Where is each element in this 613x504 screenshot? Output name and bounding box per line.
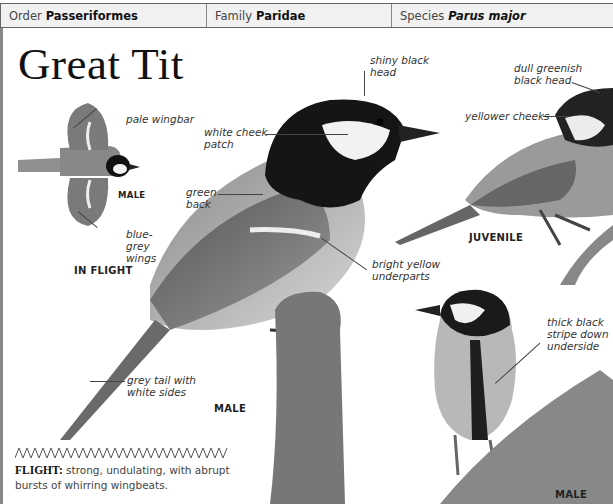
label-white-cheek-patch: white cheek patch bbox=[204, 126, 274, 150]
main-male-caption: MALE bbox=[214, 403, 246, 414]
in-flight-sex-caption: MALE bbox=[118, 190, 145, 200]
flight-pattern-zigzag-icon bbox=[15, 447, 230, 459]
leader-line bbox=[364, 71, 365, 96]
label-shiny-black-head: shiny black head bbox=[370, 54, 440, 78]
label-blue-grey-wings: blue-grey wings bbox=[126, 228, 176, 264]
label-bright-yellow-underparts: bright yellow underparts bbox=[372, 258, 462, 282]
in-flight-caption: IN FLIGHT bbox=[74, 265, 133, 276]
leader-line bbox=[90, 381, 125, 382]
label-grey-tail: grey tail with white sides bbox=[127, 374, 207, 398]
flight-description: FLIGHT: strong, undulating, with abrupt … bbox=[15, 463, 255, 493]
label-dull-greenish-black-head: dull greenish black head bbox=[514, 62, 594, 86]
label-green-back: green back bbox=[186, 186, 226, 210]
label-pale-wingbar: pale wingbar bbox=[126, 113, 194, 125]
juvenile-caption: JUVENILE bbox=[469, 232, 523, 243]
front-male-caption: MALE bbox=[555, 489, 587, 500]
label-yellower-cheeks: yellower cheeks bbox=[465, 110, 550, 122]
leader-line bbox=[266, 134, 348, 135]
flight-heading: FLIGHT: bbox=[15, 464, 63, 476]
tree-stump-illustration bbox=[270, 292, 345, 504]
label-thick-black-stripe: thick black stripe down underside bbox=[547, 316, 613, 352]
